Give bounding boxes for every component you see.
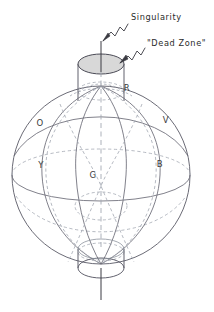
- region-label-v: V: [163, 115, 169, 125]
- lobe-curve-left: [60, 104, 134, 262]
- region-label-b: B: [157, 159, 163, 169]
- central-node-ellipse: [75, 192, 127, 220]
- meridian-front-center-left: [76, 86, 101, 264]
- singularity-label: Singularity: [131, 12, 182, 22]
- singularity-annotation: Singularity: [103, 12, 182, 41]
- meridian-front-center-right: [101, 86, 126, 264]
- lobe-curve-right: [68, 104, 142, 262]
- region-label-o: O: [36, 118, 43, 128]
- region-label-g: G: [89, 170, 96, 180]
- figure-canvas: Singularity "Dead Zone" O R V Y G B: [0, 0, 214, 312]
- bottom-cylinder-body: [78, 249, 124, 268]
- meridian-front-right: [101, 86, 160, 264]
- region-label-y: Y: [37, 160, 44, 170]
- dead-zone-annotation: "Dead Zone": [120, 38, 206, 63]
- bottom-cylinder-cap-back: [78, 258, 124, 268]
- singularity-arrowhead-icon: [103, 33, 110, 41]
- dead-zone-label: "Dead Zone": [147, 38, 206, 48]
- meridian-back-right: [101, 86, 156, 264]
- sphere-dead-zone-diagram: Singularity "Dead Zone" O R V Y G B: [0, 0, 214, 312]
- region-label-r: R: [124, 83, 130, 93]
